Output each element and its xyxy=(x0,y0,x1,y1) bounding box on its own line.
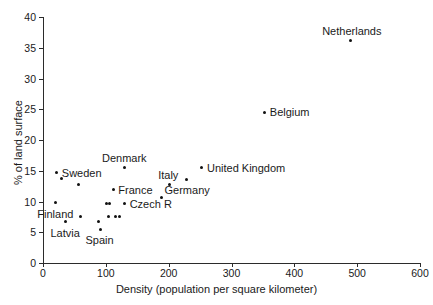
x-tick-label: 100 xyxy=(86,267,126,279)
data-point xyxy=(55,171,58,174)
y-tick-mark xyxy=(39,263,43,264)
y-tick-label: 0 xyxy=(14,257,36,269)
data-point xyxy=(97,220,100,223)
y-tick-mark xyxy=(39,109,43,110)
x-axis-label: Density (population per square kilometer… xyxy=(0,283,433,295)
data-point-label: Sweden xyxy=(62,167,102,179)
data-point xyxy=(263,111,266,114)
data-point-label: Finland xyxy=(37,208,73,220)
data-point-label: Latvia xyxy=(50,227,79,239)
y-tick-label: 35 xyxy=(14,42,36,54)
data-point-label: Italy xyxy=(158,169,178,181)
x-tick-label: 300 xyxy=(212,267,252,279)
data-point xyxy=(123,166,126,169)
data-point xyxy=(349,39,352,42)
data-point-label: France xyxy=(118,184,152,196)
y-tick-label: 10 xyxy=(14,196,36,208)
y-tick-label: 5 xyxy=(14,226,36,238)
data-point xyxy=(200,166,203,169)
y-axis-line xyxy=(43,17,44,263)
y-tick-mark xyxy=(39,232,43,233)
data-point-label: Belgium xyxy=(270,106,310,118)
y-tick-mark xyxy=(39,17,43,18)
data-point xyxy=(112,188,115,191)
data-point xyxy=(118,215,121,218)
y-tick-mark xyxy=(39,48,43,49)
data-point xyxy=(107,215,110,218)
data-point-label: Spain xyxy=(86,234,114,246)
x-tick-label: 500 xyxy=(337,267,377,279)
data-point xyxy=(54,201,57,204)
data-point xyxy=(108,202,111,205)
data-point xyxy=(99,228,102,231)
x-tick-label: 200 xyxy=(149,267,189,279)
x-tick-label: 600 xyxy=(400,267,433,279)
data-point xyxy=(79,215,82,218)
data-point xyxy=(60,177,63,180)
data-point xyxy=(114,215,117,218)
y-tick-mark xyxy=(39,140,43,141)
y-tick-mark xyxy=(39,202,43,203)
data-point-label: Netherlands xyxy=(322,25,381,37)
scatter-plot: 01002003004005006000510152025303540 Finl… xyxy=(0,0,433,305)
data-point-label: Germany xyxy=(165,184,210,196)
y-tick-label: 30 xyxy=(14,73,36,85)
y-tick-mark xyxy=(39,171,43,172)
data-point xyxy=(77,183,80,186)
data-point-label: Denmark xyxy=(102,152,147,164)
data-point-label: Czech R xyxy=(130,198,172,210)
data-point xyxy=(64,220,67,223)
y-axis-label: % of land surface xyxy=(12,100,24,185)
data-point xyxy=(185,178,188,181)
x-tick-label: 400 xyxy=(274,267,314,279)
data-point-label: United Kingdom xyxy=(207,162,285,174)
y-tick-label: 40 xyxy=(14,11,36,23)
data-point xyxy=(123,202,126,205)
y-tick-mark xyxy=(39,79,43,80)
